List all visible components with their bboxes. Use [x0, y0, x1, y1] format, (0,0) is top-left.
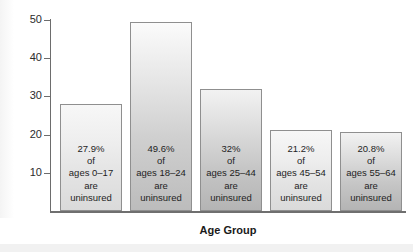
bar-label-line: uninsured: [210, 192, 252, 204]
x-axis-title: Age Group: [50, 224, 406, 236]
bar-label-line: uninsured: [70, 192, 112, 204]
bar-label-line: of: [87, 155, 95, 167]
y-axis-tick-label: 50: [2, 14, 42, 25]
bar-label-line: of: [297, 155, 305, 167]
bar-label-line: of: [227, 155, 235, 167]
bar-label-line: 27.9%: [78, 143, 105, 155]
y-axis-tick-label: 30: [2, 90, 42, 101]
bar-label-line: uninsured: [140, 192, 182, 204]
plot-area: 27.9%ofages 0–17areuninsured49.6%ofages …: [50, 14, 405, 211]
bar-label-line: are: [84, 180, 98, 192]
bar-label-line: ages 45–54: [276, 167, 326, 179]
bar-label-line: 49.6%: [148, 143, 175, 155]
bar-label-line: 20.8%: [358, 143, 385, 155]
bar-label-line: are: [294, 180, 308, 192]
bar[interactable]: 27.9%ofages 0–17areuninsured: [60, 104, 122, 211]
y-axis-tick-label: 20: [2, 129, 42, 140]
bar-label-line: of: [367, 155, 375, 167]
bar-label-line: are: [364, 180, 378, 192]
scan-bottom-band: [0, 244, 413, 252]
bar-label-line: are: [224, 180, 238, 192]
y-axis-tick-labels: 1020304050: [0, 0, 42, 252]
bar[interactable]: 32%ofages 25–44areuninsured: [200, 89, 262, 211]
bar-label-line: ages 18–24: [136, 167, 186, 179]
bar-label-line: uninsured: [280, 192, 322, 204]
bar[interactable]: 21.2%ofages 45–54areuninsured: [270, 130, 332, 211]
bar-label-line: are: [154, 180, 168, 192]
bar-label-line: ages 0–17: [69, 167, 113, 179]
bar-label-line: 21.2%: [288, 143, 315, 155]
bar-label-line: ages 25–44: [206, 167, 256, 179]
bar[interactable]: 49.6%ofages 18–24areuninsured: [130, 22, 192, 211]
bar[interactable]: 20.8%ofages 55–64areuninsured: [340, 132, 402, 211]
bar-label-line: ages 55–64: [346, 167, 396, 179]
bar-label-line: uninsured: [350, 192, 392, 204]
bar-label-line: 32%: [221, 143, 240, 155]
y-axis-tick-label: 10: [2, 167, 42, 178]
x-axis-line: [50, 211, 406, 213]
bar-chart-figure: 1020304050 27.9%ofages 0–17areuninsured4…: [0, 0, 413, 252]
bar-label-line: of: [157, 155, 165, 167]
y-axis-tick-label: 40: [2, 52, 42, 63]
